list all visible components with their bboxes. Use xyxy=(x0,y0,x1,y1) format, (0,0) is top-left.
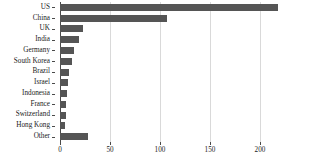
y-axis-tick xyxy=(52,18,55,19)
y-axis-tick xyxy=(52,115,55,116)
x-axis-tick-0 xyxy=(60,142,61,145)
y-axis-label-uk: UK xyxy=(40,25,50,32)
bar-row xyxy=(60,25,289,32)
y-axis-tick xyxy=(52,104,55,105)
bar xyxy=(60,69,69,76)
y-axis-label-india: India xyxy=(35,36,50,43)
bar-row xyxy=(60,4,289,11)
bar-row xyxy=(60,79,289,86)
y-axis-tick xyxy=(52,72,55,73)
bar xyxy=(60,79,68,86)
bar xyxy=(60,133,88,140)
plot-area xyxy=(60,2,289,142)
bar xyxy=(60,90,67,97)
x-axis-tick-200 xyxy=(260,142,261,145)
x-axis-label-100: 100 xyxy=(155,146,166,154)
y-axis-label-china: China xyxy=(33,15,50,22)
bar xyxy=(60,15,167,22)
y-axis-tick xyxy=(52,137,55,138)
y-axis-tick xyxy=(52,40,55,41)
bar xyxy=(60,36,79,43)
y-axis-label-indonesia: Indonesia xyxy=(22,90,50,97)
bar xyxy=(60,122,65,129)
y-axis-tick xyxy=(52,94,55,95)
bar-row xyxy=(60,36,289,43)
y-axis-label-switzerland: Switzerland xyxy=(16,111,50,118)
bar xyxy=(60,47,74,54)
y-axis-tick xyxy=(52,126,55,127)
bar xyxy=(60,25,83,32)
x-axis-label-50: 50 xyxy=(106,146,113,154)
y-axis-label-brazil: Brazil xyxy=(32,68,50,75)
x-axis-label-150: 150 xyxy=(205,146,216,154)
bar xyxy=(60,101,66,108)
bar-row xyxy=(60,58,289,65)
bar-chart: USChinaUKIndiaGermanySouth KoreaBrazilIs… xyxy=(0,0,316,166)
y-axis-label-germany: Germany xyxy=(23,47,50,54)
y-axis-tick xyxy=(52,61,55,62)
bar xyxy=(60,58,72,65)
x-axis-label-200: 200 xyxy=(255,146,266,154)
x-axis: 050100150200 xyxy=(60,142,289,164)
bar-row xyxy=(60,112,289,119)
y-axis-tick xyxy=(52,83,55,84)
bar-row xyxy=(60,15,289,22)
x-axis-label-0: 0 xyxy=(58,146,62,154)
x-axis-tick-100 xyxy=(160,142,161,145)
bar xyxy=(60,112,66,119)
bar-row xyxy=(60,69,289,76)
bar-row xyxy=(60,47,289,54)
y-axis-tick xyxy=(52,7,55,8)
x-axis-tick-50 xyxy=(110,142,111,145)
bar xyxy=(60,4,278,11)
y-axis-label-hong-kong: Hong Kong xyxy=(16,122,50,129)
y-axis-label-south-korea: South Korea xyxy=(14,58,50,65)
y-axis-label-other: Other xyxy=(34,133,50,140)
y-axis-tick xyxy=(52,29,55,30)
bar-row xyxy=(60,133,289,140)
bar-row xyxy=(60,122,289,129)
y-axis-label-israel: Israel xyxy=(34,79,50,86)
y-axis-tick xyxy=(52,50,55,51)
bar-row xyxy=(60,101,289,108)
y-axis-label-us: US xyxy=(41,4,50,11)
bar-row xyxy=(60,90,289,97)
y-axis-category-labels: USChinaUKIndiaGermanySouth KoreaBrazilIs… xyxy=(0,2,55,142)
y-axis-label-france: France xyxy=(30,101,50,108)
x-axis-tick-150 xyxy=(210,142,211,145)
